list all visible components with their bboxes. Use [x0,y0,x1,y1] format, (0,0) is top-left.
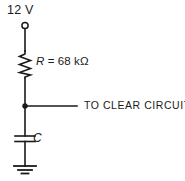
circuit-diagram-canvas: 12 V R = 68 kΩ C TO CLEAR CIRCUITRY [0,0,185,181]
output-destination-label: TO CLEAR CIRCUITRY [84,100,185,111]
capacitor-designator-label: C [33,132,42,144]
schematic-drawing [0,0,185,181]
resistor-value: 68 kΩ [58,55,89,67]
resistor-equals-sign: = [44,55,57,67]
resistor-value-label: R = 68 kΩ [36,56,89,68]
supply-terminal-icon [22,22,28,28]
resistor-icon [20,51,31,78]
supply-voltage-label: 12 V [7,4,34,17]
